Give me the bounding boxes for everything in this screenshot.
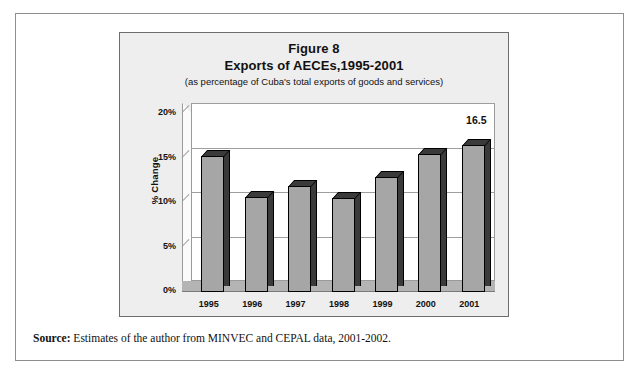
y-axis-tick-labels: 0%5%10%15%20% xyxy=(142,103,176,318)
figure-subtitle: (as percentage of Cuba's total exports o… xyxy=(120,75,508,89)
bar-front-face xyxy=(462,145,485,292)
x-axis-tick-label-1997: 1997 xyxy=(273,299,319,309)
x-axis-tick-label-1999: 1999 xyxy=(359,299,405,309)
x-axis-tick-label-2001: 2001 xyxy=(446,299,492,309)
y-axis-tick-label: 10% xyxy=(142,196,176,206)
bar-side-face xyxy=(355,192,361,286)
bar-side-face xyxy=(268,191,274,286)
source-note: Source: Estimates of the author from MIN… xyxy=(33,332,391,344)
bar-1999[interactable] xyxy=(375,168,398,292)
x-axis-tick-label-1995: 1995 xyxy=(186,299,232,309)
source-text: Estimates of the author from MINVEC and … xyxy=(70,332,390,344)
y-axis-tick-label: 20% xyxy=(142,107,176,117)
bar-front-face xyxy=(332,198,355,292)
plot-area: 16.5 xyxy=(182,103,502,303)
bar-side-face xyxy=(441,148,447,286)
page-frame: Figure 8 Exports of AECEs,1995-2001 (as … xyxy=(15,13,624,361)
bar-2000[interactable] xyxy=(418,145,441,292)
x-axis-tick-label-1998: 1998 xyxy=(316,299,362,309)
figure-chart-box: Figure 8 Exports of AECEs,1995-2001 (as … xyxy=(119,32,509,317)
bar-front-face xyxy=(418,154,441,292)
x-axis-tick-label-1996: 1996 xyxy=(229,299,275,309)
source-label: Source: xyxy=(33,332,70,344)
bar-front-face xyxy=(375,177,398,292)
plot-region: % Change 0%5%10%15%20% 16.5 199519961997… xyxy=(120,103,510,318)
bar-front-face xyxy=(245,197,268,292)
bar-1995[interactable] xyxy=(201,147,224,292)
bar-front-face xyxy=(288,186,311,292)
bar-value-label: 16.5 xyxy=(453,114,499,126)
figure-title: Exports of AECEs,1995-2001 xyxy=(120,57,508,74)
figure-number: Figure 8 xyxy=(120,41,508,57)
bar-1997[interactable] xyxy=(288,177,311,292)
bar-side-face xyxy=(398,171,404,286)
bar-1998[interactable] xyxy=(332,189,355,292)
y-axis-tick-label: 15% xyxy=(142,152,176,162)
bar-side-face xyxy=(485,139,491,286)
y-axis-tick-label: 5% xyxy=(142,241,176,251)
x-axis-tick-labels: 1995199619971998199920002001 xyxy=(182,295,502,315)
bar-front-face xyxy=(201,156,224,292)
figure-title-block: Figure 8 Exports of AECEs,1995-2001 (as … xyxy=(120,33,508,89)
bar-1996[interactable] xyxy=(245,188,268,292)
y-axis-tick-label: 0% xyxy=(142,285,176,295)
bars-layer: 16.5 xyxy=(182,103,502,303)
x-axis-tick-label-2000: 2000 xyxy=(403,299,449,309)
bar-side-face xyxy=(224,150,230,286)
bar-2001[interactable] xyxy=(462,136,485,292)
bar-side-face xyxy=(311,180,317,286)
